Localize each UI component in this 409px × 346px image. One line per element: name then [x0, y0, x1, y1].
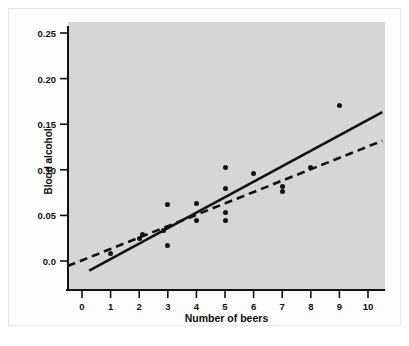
- x-tick-label: 0: [79, 301, 84, 312]
- x-tick-label: 1: [108, 301, 113, 312]
- x-axis-title: Number of beers: [68, 312, 385, 324]
- plot-area: [68, 22, 385, 290]
- x-tick-label: 2: [137, 301, 142, 312]
- y-tick-label: 0.25: [10, 28, 56, 39]
- x-tick-label: 8: [308, 301, 313, 312]
- y-axis-title: Blood alcohol: [43, 102, 54, 222]
- y-tick-label: 0.0: [10, 256, 56, 267]
- x-tick-label: 7: [280, 301, 285, 312]
- chart-figure: 0.25 0.20 0.15 0.10 0.05 0.0 0 1 2 3 4 5…: [0, 0, 409, 346]
- y-tick-label: 0.20: [10, 73, 56, 84]
- x-tick-label: 4: [194, 301, 199, 312]
- x-tick-label: 6: [251, 301, 256, 312]
- x-tick-label: 9: [337, 301, 342, 312]
- x-tick-label: 5: [222, 301, 227, 312]
- x-tick-label: 3: [165, 301, 170, 312]
- x-tick-label: 10: [363, 301, 374, 312]
